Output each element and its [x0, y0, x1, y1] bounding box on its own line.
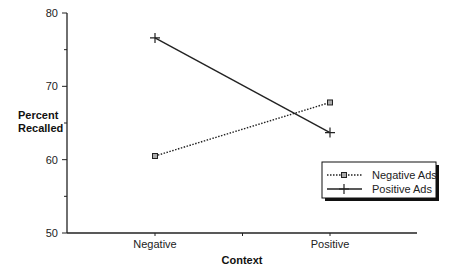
series-layer [150, 33, 335, 159]
plus-marker-icon [325, 128, 335, 138]
y-axis-title-line2: Recalled [18, 122, 63, 134]
series-line [155, 102, 330, 156]
x-tick-label: Positive [311, 238, 350, 250]
line-chart: 50607080 NegativePositive Percent Recall… [0, 0, 458, 275]
plus-marker-icon [150, 33, 160, 43]
series-line [155, 38, 330, 133]
y-tick-label: 80 [46, 7, 58, 19]
legend: Negative Ads Positive Ads [322, 162, 439, 201]
legend-square-marker-icon [342, 173, 347, 178]
x-tick-label: Negative [133, 238, 176, 250]
y-tick-label: 70 [46, 80, 58, 92]
y-axis-title-line1: Percent [18, 109, 59, 121]
legend-label-positive-ads: Positive Ads [372, 183, 432, 195]
x-tick-labels: NegativePositive [133, 238, 349, 250]
y-tick-label: 50 [46, 227, 58, 239]
x-axis-title: Context [222, 254, 263, 266]
square-marker-icon [328, 100, 333, 105]
axes [62, 13, 417, 236]
y-tick-label: 60 [46, 154, 58, 166]
legend-label-negative-ads: Negative Ads [372, 169, 437, 181]
square-marker-icon [153, 154, 158, 159]
